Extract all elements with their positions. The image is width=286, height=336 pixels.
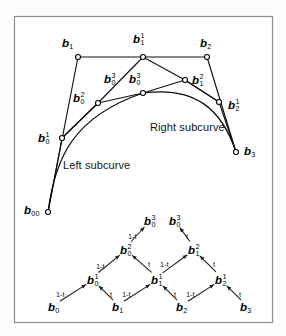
label-superscript-subscript-stack: 12 xyxy=(235,99,239,112)
label-base-letter: b xyxy=(129,73,136,85)
control-point-b00 xyxy=(46,210,51,215)
point-label-b11: b11 xyxy=(133,33,144,46)
tree-edge-label-3: t xyxy=(174,291,176,299)
tree-edge-label-1: t xyxy=(110,291,112,299)
label-base-letter: b xyxy=(24,204,31,216)
point-label-b02: b20 xyxy=(73,92,84,105)
label-subscript: 2 xyxy=(207,42,211,51)
label-base-letter: b xyxy=(200,37,207,49)
label-base-letter: b xyxy=(192,74,199,86)
label-base-letter: b xyxy=(188,244,195,256)
point-label-b1: b1 xyxy=(62,38,73,50)
label-base-letter: b xyxy=(87,274,94,286)
point-label-t-b12: b21 xyxy=(188,244,199,257)
label-superscript-subscript-stack: 11 xyxy=(140,33,144,46)
tree-edge-label-10: 1-t xyxy=(128,233,137,241)
point-label-t-b2: b2 xyxy=(176,302,187,314)
point-label-b01: b10 xyxy=(38,132,49,145)
point-label-b03l: b30 xyxy=(104,73,115,86)
label-superscript-subscript-stack: 10 xyxy=(45,132,49,145)
point-label-b2: b2 xyxy=(200,38,211,50)
caption-right-subcurve: Right subcurve xyxy=(150,122,225,133)
label-superscript-subscript-stack: 20 xyxy=(80,92,84,105)
label-subscript: 0 xyxy=(55,306,59,315)
label-base-letter: b xyxy=(215,274,222,286)
label-base-letter: b xyxy=(228,99,235,111)
point-label-b12: b21 xyxy=(192,74,203,87)
label-subscript: 1 xyxy=(69,42,73,51)
label-superscript-subscript-stack: 30 xyxy=(136,73,140,86)
label-superscript-subscript-stack: 12 xyxy=(222,274,226,287)
tree-edge-label-2: 1-t xyxy=(122,291,131,299)
point-label-t-b01: b10 xyxy=(87,274,98,287)
label-base-letter: b xyxy=(38,132,45,144)
control-point-b2 xyxy=(205,55,210,60)
label-base-letter: b xyxy=(120,244,127,256)
figure-root: b00b1b11b2b10b20b30b30b21b12b3 Left subc… xyxy=(0,0,286,336)
label-base-letter: b xyxy=(62,37,69,49)
label-subscript: 1 xyxy=(119,306,123,315)
control-point-b1 xyxy=(76,55,81,60)
point-label-t-b1: b1 xyxy=(112,302,123,314)
point-label-t-b3: b3 xyxy=(240,302,251,314)
figure-frame xyxy=(15,17,273,323)
label-superscript-subscript-stack: 20 xyxy=(127,244,131,257)
control-point-b11 xyxy=(141,55,146,60)
tree-edge-label-6: 1-t xyxy=(96,263,105,271)
control-point-b03l xyxy=(141,91,146,96)
point-label-b03r: b30 xyxy=(129,73,140,86)
control-point-b01 xyxy=(60,136,65,141)
tree-edge-label-7: t xyxy=(148,261,150,269)
point-label-t-b03a: b30 xyxy=(144,215,155,228)
label-subscript: 2 xyxy=(183,306,187,315)
label-superscript-subscript-stack: 21 xyxy=(199,74,203,87)
label-superscript-subscript-stack: 21 xyxy=(195,244,199,257)
control-point-b02 xyxy=(96,101,101,106)
point-label-t-b11: b11 xyxy=(151,274,162,287)
label-subscript-secondary: 0 xyxy=(35,209,39,218)
label-subscript: 3 xyxy=(247,306,251,315)
tree-edge-label-11: t xyxy=(186,233,188,241)
control-point-b12 xyxy=(183,78,188,83)
tree-edge-label-8: 1-t xyxy=(160,261,169,269)
point-label-t-b03b: b30 xyxy=(169,215,180,228)
control-point-b3 xyxy=(234,150,239,155)
label-base-letter: b xyxy=(240,301,247,313)
label-superscript-subscript-stack: 10 xyxy=(94,274,98,287)
label-base-letter: b xyxy=(48,301,55,313)
label-base-letter: b xyxy=(151,274,158,286)
label-subscript: 3 xyxy=(251,150,255,159)
label-base-letter: b xyxy=(144,215,151,227)
label-base-letter: b xyxy=(112,301,119,313)
tree-edge-label-5: t xyxy=(239,291,241,299)
label-base-letter: b xyxy=(133,33,140,45)
point-label-t-b02: b20 xyxy=(120,244,131,257)
label-superscript-subscript-stack: 30 xyxy=(151,215,155,228)
figure-canvas xyxy=(0,0,286,336)
tree-edge-label-9: t xyxy=(213,261,215,269)
caption-left-subcurve: Left subcurve xyxy=(63,160,130,171)
point-label-b21: b12 xyxy=(228,99,239,112)
control-point-b21 xyxy=(217,100,222,105)
label-base-letter: b xyxy=(169,215,176,227)
point-label-t-b21: b12 xyxy=(215,274,226,287)
point-label-b00: b00 xyxy=(24,205,39,217)
tree-edge-label-0: 1-t xyxy=(56,291,65,299)
label-superscript-subscript-stack: 11 xyxy=(158,274,162,287)
point-label-b3: b3 xyxy=(244,146,255,158)
tree-edge-label-4: 1-t xyxy=(186,291,195,299)
label-base-letter: b xyxy=(73,92,80,104)
label-superscript-subscript-stack: 30 xyxy=(111,73,115,86)
label-base-letter: b xyxy=(176,301,183,313)
label-superscript-subscript-stack: 30 xyxy=(176,215,180,228)
label-base-letter: b xyxy=(244,145,251,157)
label-base-letter: b xyxy=(104,73,111,85)
point-label-t-b0: b0 xyxy=(48,302,59,314)
